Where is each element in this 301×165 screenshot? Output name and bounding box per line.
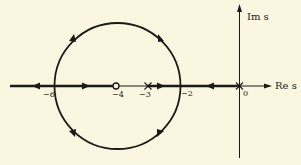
tick-label-neg6: −6 bbox=[43, 90, 55, 99]
root-locus-plot: −6 −4 −3 −2 0 Re s Im s bbox=[0, 0, 301, 165]
tick-label-neg2: −2 bbox=[181, 89, 193, 98]
tick-label-neg3: −3 bbox=[139, 90, 151, 99]
imag-axis bbox=[237, 4, 242, 158]
root-locus-diagram: −6 −4 −3 −2 0 Re s Im s bbox=[0, 0, 301, 165]
tick-label-neg4: −4 bbox=[112, 90, 124, 99]
imag-axis-label: Im s bbox=[247, 11, 269, 22]
tick-label-0: 0 bbox=[243, 89, 248, 98]
real-axis-label: Re s bbox=[275, 80, 297, 91]
zero-marker bbox=[113, 83, 119, 89]
